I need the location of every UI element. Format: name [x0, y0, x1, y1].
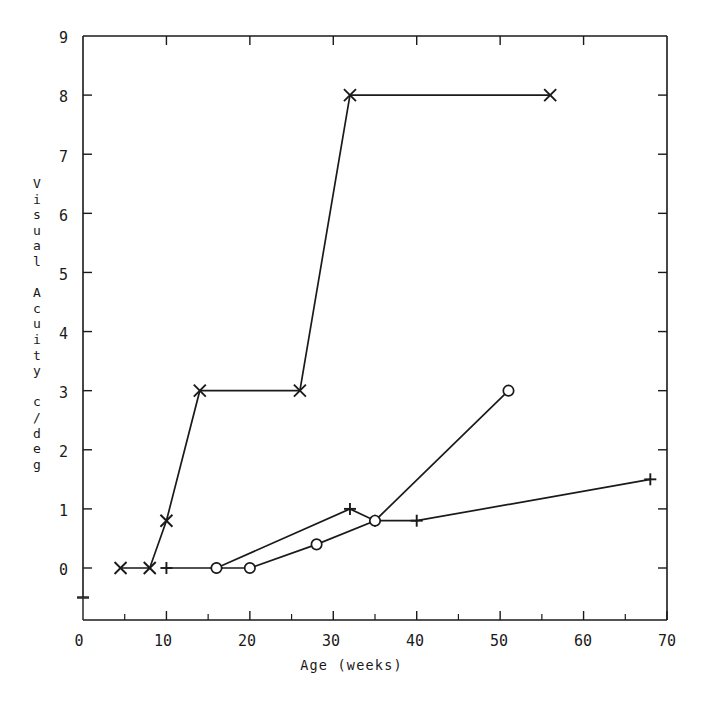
series-circle-series: [211, 385, 513, 573]
data-series-group: [115, 89, 657, 574]
marker-circle-2-0: [211, 563, 221, 573]
marker-circle-2-2: [311, 539, 321, 549]
marker-plus-1-4: [411, 515, 423, 527]
series-cross-series: [115, 89, 557, 574]
marker-circle-2-4: [503, 385, 513, 395]
axes-group: [77, 36, 667, 620]
marker-plus-1-2: [344, 503, 356, 515]
series-line-cross-series: [121, 95, 551, 568]
series-line-circle-series: [216, 391, 508, 568]
chart-figure: Visual Acuity c/deg 9 8 7 6 5 4 3 2 1 0 …: [0, 0, 703, 707]
marker-circle-2-3: [370, 516, 380, 526]
marker-plus-1-0: [160, 562, 172, 574]
plot-area: [0, 0, 703, 707]
marker-circle-2-1: [245, 563, 255, 573]
marker-cross-0-2: [160, 515, 172, 527]
marker-plus-1-5: [644, 473, 656, 485]
series-line-plus-series: [166, 479, 650, 568]
